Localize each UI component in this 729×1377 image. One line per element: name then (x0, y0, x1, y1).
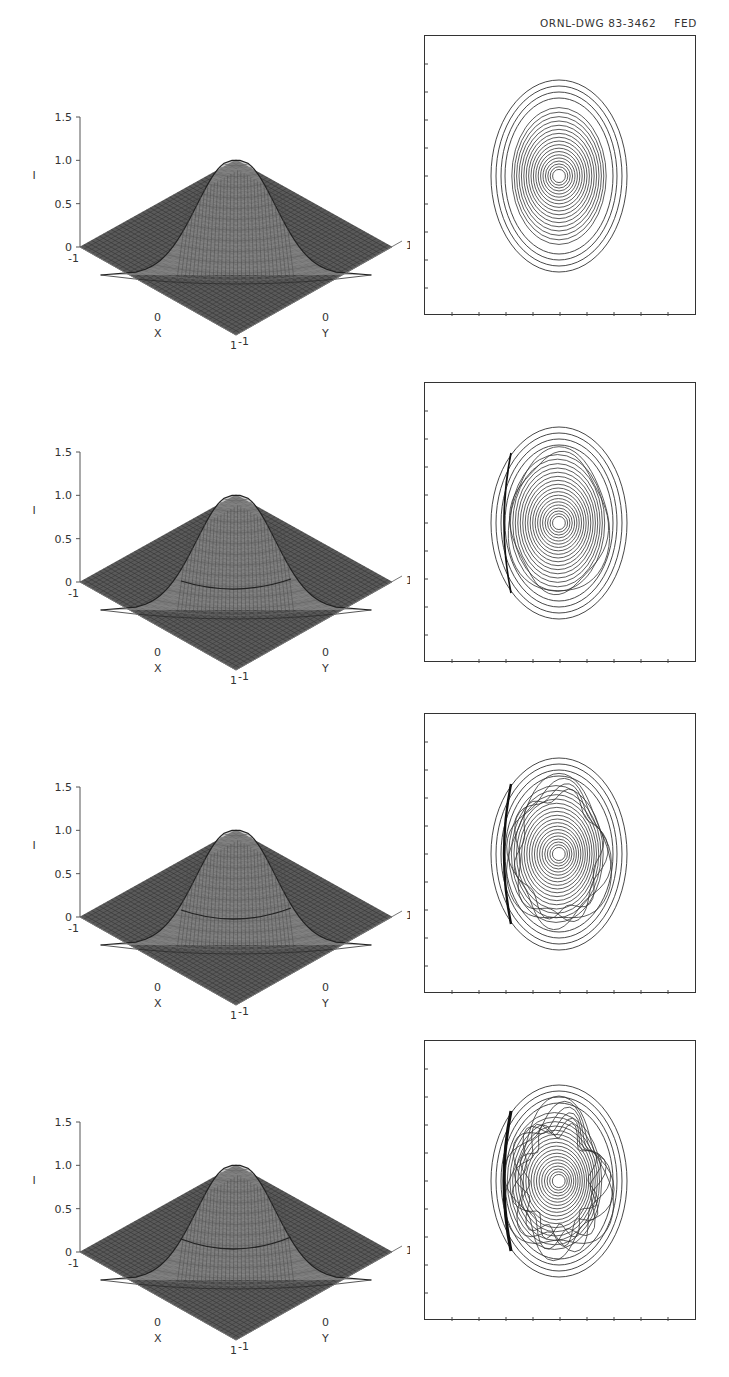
x-tick-min: -1 (68, 1257, 79, 1270)
z-axis-label: I (32, 169, 35, 182)
y-tick-mid: 0 (322, 1316, 329, 1329)
y-axis-label: Y (321, 327, 329, 340)
y-tick-min: -1 (238, 1340, 249, 1353)
x-tick-mid: 0 (154, 981, 161, 994)
z-tick: 1.5 (55, 111, 73, 124)
x-tick-mid: 0 (154, 1316, 161, 1329)
z-axis-label: I (32, 839, 35, 852)
contour-plot (424, 382, 696, 662)
x-axis-label: X (154, 1332, 162, 1345)
z-tick: 1.0 (55, 154, 73, 167)
z-tick: 0.5 (55, 1203, 73, 1216)
contour-plot (424, 1040, 696, 1320)
y-tick-mid: 0 (322, 646, 329, 659)
z-tick: 1.5 (55, 1116, 73, 1129)
z-tick: 1.5 (55, 446, 73, 459)
z-axis-label: I (32, 1174, 35, 1187)
y-tick-min: -1 (238, 335, 249, 348)
y-axis-label: Y (321, 662, 329, 675)
contour-plot (424, 713, 696, 993)
x-axis-label: X (154, 662, 162, 675)
drawing-id: ORNL-DWG 83-3462FED (540, 17, 697, 29)
z-tick: 0.5 (55, 533, 73, 546)
y-tick-max: 1 (406, 239, 410, 252)
y-tick-max: 1 (406, 909, 410, 922)
y-axis-label: Y (321, 997, 329, 1010)
x-tick-max: 1 (230, 674, 237, 687)
z-tick: 1.0 (55, 489, 73, 502)
x-tick-min: -1 (68, 252, 79, 265)
x-axis-label: X (154, 327, 162, 340)
x-tick-max: 1 (230, 1009, 237, 1022)
y-tick-min: -1 (238, 1005, 249, 1018)
y-tick-max: 1 (406, 1244, 410, 1257)
y-tick-min: -1 (238, 670, 249, 683)
x-tick-max: 1 (230, 339, 237, 352)
x-tick-max: 1 (230, 1344, 237, 1357)
contour-plot (424, 35, 696, 315)
y-axis-label: Y (321, 1332, 329, 1345)
y-tick-mid: 0 (322, 981, 329, 994)
y-tick-max: 1 (406, 574, 410, 587)
x-tick-mid: 0 (154, 311, 161, 324)
z-tick: 1.0 (55, 1159, 73, 1172)
x-axis-label: X (154, 997, 162, 1010)
z-tick: 1.0 (55, 824, 73, 837)
z-tick: 0.5 (55, 868, 73, 881)
x-tick-min: -1 (68, 922, 79, 935)
drawing-suffix: FED (674, 17, 697, 29)
y-tick-mid: 0 (322, 311, 329, 324)
drawing-number: ORNL-DWG 83-3462 (540, 17, 656, 29)
z-axis-label: I (32, 504, 35, 517)
x-tick-mid: 0 (154, 646, 161, 659)
z-tick: 1.5 (55, 781, 73, 794)
z-tick: 0.5 (55, 198, 73, 211)
x-tick-min: -1 (68, 587, 79, 600)
